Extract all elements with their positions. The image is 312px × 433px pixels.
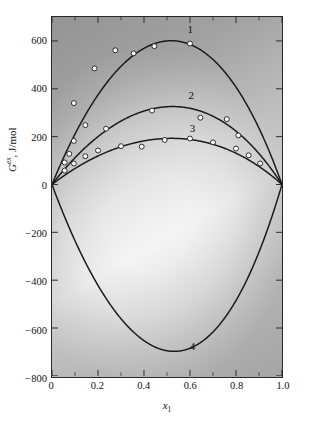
- data-point-series-2: [104, 126, 109, 131]
- data-point-series-1: [71, 101, 76, 106]
- data-point-series-3: [96, 148, 101, 153]
- data-point-series-3: [162, 138, 167, 143]
- data-point-series-1: [113, 48, 118, 53]
- curve-3: [52, 138, 282, 184]
- data-point-series-3: [234, 146, 239, 151]
- curve-4: [52, 184, 282, 351]
- y-tick-label: −800: [3, 373, 47, 384]
- data-point-series-3: [139, 144, 144, 149]
- data-point-series-2: [150, 108, 155, 113]
- x-tick-label: 0.2: [91, 380, 104, 391]
- chart-figure: Gex, J/mol x1 6004002000−200−400−600−800…: [0, 0, 312, 433]
- data-point-series-3: [211, 140, 216, 145]
- data-point-series-1: [92, 66, 97, 71]
- y-tick-label: 0: [3, 179, 47, 190]
- data-point-series-1: [62, 160, 67, 165]
- data-point-series-2: [198, 115, 203, 120]
- x-axis-subscript: 1: [168, 405, 172, 414]
- y-tick-label: 600: [3, 35, 47, 46]
- x-tick-label: 0.6: [184, 380, 197, 391]
- curve-label-4: 4: [190, 340, 196, 352]
- y-tick-label: 200: [3, 131, 47, 142]
- data-point-series-3: [119, 144, 124, 149]
- data-point-series-1: [67, 151, 72, 156]
- y-tick-label: −400: [3, 276, 47, 287]
- curve-2: [52, 107, 282, 185]
- y-tick-label: 400: [3, 83, 47, 94]
- y-axis-symbol: G: [6, 164, 18, 172]
- curve-label-3: 3: [190, 122, 196, 134]
- data-point-series-3: [188, 136, 193, 141]
- data-point-series-2: [83, 123, 88, 128]
- data-point-series-2: [224, 117, 229, 122]
- data-point-series-3: [258, 161, 263, 166]
- x-tick-label: 1.0: [276, 380, 289, 391]
- data-point-series-1: [152, 44, 157, 49]
- axis-ticks: [52, 17, 282, 376]
- plot-svg: [52, 17, 282, 376]
- x-axis-title: x1: [163, 399, 172, 414]
- data-point-series-3: [246, 153, 251, 158]
- data-point-series-1: [188, 41, 193, 46]
- data-point-series-2: [236, 133, 241, 138]
- x-tick-label: 0.4: [137, 380, 150, 391]
- data-point-series-3: [83, 154, 88, 159]
- plot-area: [51, 16, 283, 378]
- data-point-series-2: [71, 138, 76, 143]
- curve-label-2: 2: [189, 89, 195, 101]
- y-tick-label: −200: [3, 228, 47, 239]
- data-point-series-1: [131, 51, 136, 56]
- data-point-series-3: [71, 161, 76, 166]
- y-axis-superscript: ex: [4, 157, 13, 164]
- data-point-series-3: [62, 168, 67, 173]
- curves-group: [52, 41, 282, 352]
- x-tick-label: 0: [48, 380, 53, 391]
- curve-label-1: 1: [187, 23, 193, 35]
- x-tick-label: 0.8: [230, 380, 243, 391]
- curve-1: [52, 41, 282, 185]
- y-tick-label: −600: [3, 324, 47, 335]
